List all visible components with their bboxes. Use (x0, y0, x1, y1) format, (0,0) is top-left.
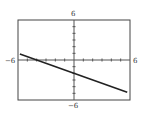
x-max-label: 6 (133, 58, 137, 65)
x-min-label: −6 (5, 58, 15, 65)
y-min-label: −6 (68, 103, 78, 110)
y-max-label: 6 (71, 11, 75, 18)
